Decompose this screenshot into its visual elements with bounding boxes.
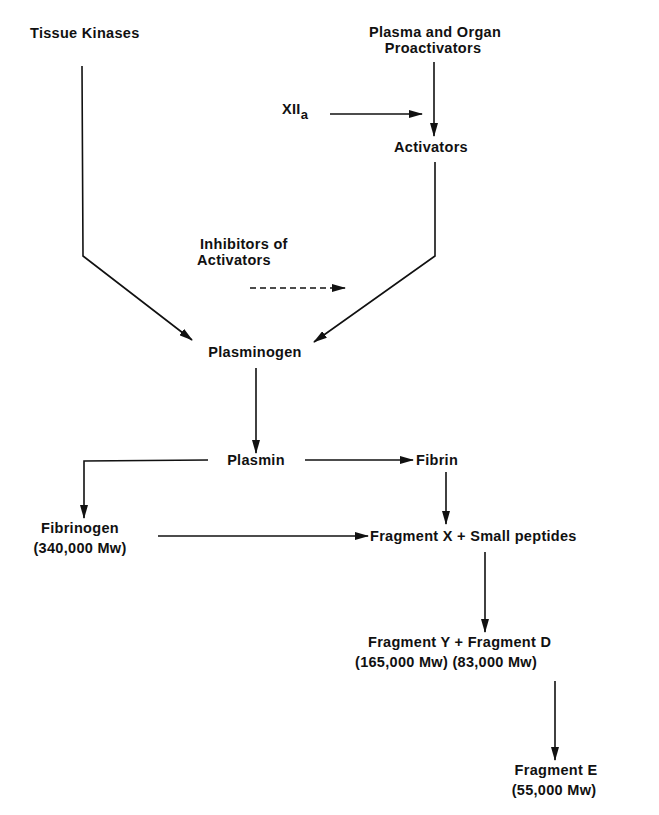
arrow-plasmin-to-fibrinogen <box>84 460 208 518</box>
node-fragment-e: Fragment E <box>515 762 598 779</box>
xii-label: XII <box>282 101 301 117</box>
node-plasmin: Plasmin <box>227 452 285 469</box>
node-fibrinogen: Fibrinogen <box>41 520 119 537</box>
arrow-tissue-kinases-to-plasminogen <box>82 66 192 340</box>
node-inhibitors-line1: Inhibitors of <box>200 236 288 253</box>
node-inhibitors-line2: Activators <box>197 252 271 269</box>
node-fragment-x: Fragment X + Small peptides <box>370 528 577 545</box>
node-activators: Activators <box>394 139 468 156</box>
node-proactivators-line2: Proactivators <box>385 40 482 57</box>
node-xiia: XIIa <box>282 101 308 123</box>
node-fragment-y-d: Fragment Y + Fragment D <box>368 634 551 651</box>
node-fragment-y-d-mw: (165,000 Mw) (83,000 Mw) <box>355 654 537 671</box>
node-proactivators-line1: Plasma and Organ <box>369 24 501 41</box>
node-tissue-kinases: Tissue Kinases <box>30 25 140 42</box>
arrows-layer <box>0 0 659 815</box>
node-fragment-e-mw: (55,000 Mw) <box>512 782 597 799</box>
fibrinolysis-diagram: Tissue Kinases Plasma and Organ Proactiv… <box>0 0 659 815</box>
node-fibrin: Fibrin <box>416 452 458 469</box>
xii-subscript: a <box>301 107 309 122</box>
arrow-activators-to-plasminogen <box>314 162 435 342</box>
node-plasminogen: Plasminogen <box>208 344 302 361</box>
node-fibrinogen-mw: (340,000 Mw) <box>33 540 126 557</box>
